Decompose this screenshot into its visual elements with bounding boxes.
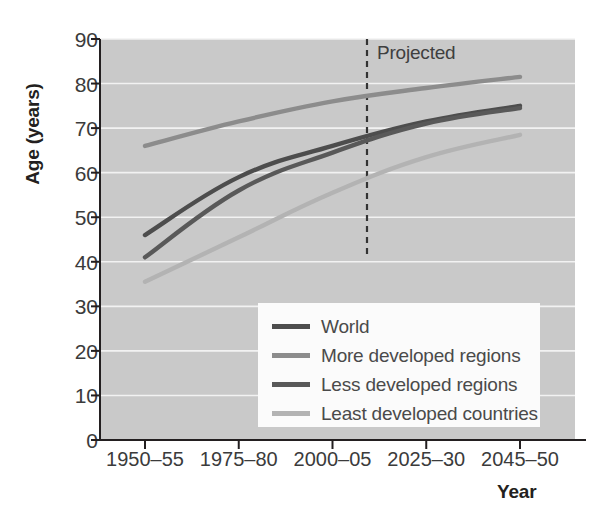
legend-item-label: Least developed countries [321, 403, 538, 425]
legend-item[interactable]: More developed regions [272, 341, 540, 370]
x-axis-ticks [145, 440, 520, 449]
y-axis-ticks [91, 39, 100, 440]
plot-area [0, 0, 594, 517]
legend-item-label: World [321, 316, 369, 338]
legend-color-swatch [272, 382, 310, 387]
legend-item-label: More developed regions [321, 345, 520, 367]
legend-item-label: Less developed regions [321, 374, 517, 396]
projected-annotation-label: Projected [377, 42, 455, 64]
legend-item[interactable]: Less developed regions [272, 370, 540, 399]
legend-color-swatch [272, 353, 310, 358]
chart-legend: WorldMore developed regionsLess develope… [258, 303, 540, 427]
life-expectancy-line-chart: Age (years) Year 0102030405060708090 195… [0, 0, 594, 517]
legend-item[interactable]: Least developed countries [272, 399, 540, 428]
legend-color-swatch [272, 411, 310, 416]
legend-color-swatch [272, 324, 310, 329]
legend-item[interactable]: World [272, 312, 540, 341]
